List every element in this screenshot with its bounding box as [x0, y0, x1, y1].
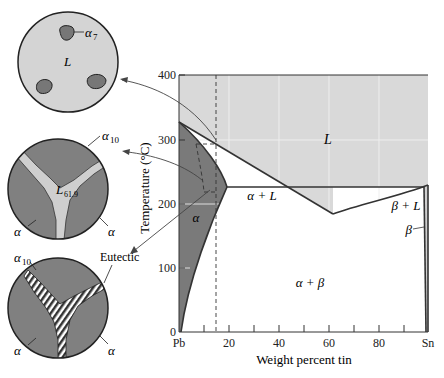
- microstructure-circle-1: α 7 L: [18, 12, 118, 112]
- c1-liquid-label: L: [63, 54, 71, 69]
- x-tick-20: 20: [223, 336, 235, 350]
- c3-alpha-right: α: [108, 343, 116, 358]
- c2-alpha10-label: α: [102, 128, 110, 143]
- c3-alpha-left: α: [14, 343, 22, 358]
- y-tick-100: 100: [158, 261, 176, 275]
- c3-alpha10-label: α: [14, 250, 22, 265]
- pb-sn-phase-diagram-figure: L α + L α α + β β + L β Pb 20 40 60 80 S…: [0, 0, 444, 378]
- phase-diagram: L α + L α α + β β + L β Pb 20 40 60 80 S…: [137, 68, 434, 367]
- microstructure-circle-2: α 10 L 61.9 α α: [8, 128, 120, 240]
- y-tick-200: 200: [158, 197, 176, 211]
- x-tick-40: 40: [273, 336, 285, 350]
- c1-alpha-sub: 7: [93, 32, 98, 42]
- c2-liquid-sub: 61.9: [64, 190, 78, 199]
- y-tick-300: 300: [158, 133, 176, 147]
- y-tick-0: 0: [170, 325, 176, 339]
- y-tick-400: 400: [158, 68, 176, 82]
- label-region-alpha-liquid: α + L: [247, 188, 276, 203]
- label-region-alpha-beta: α + β: [296, 275, 325, 290]
- c2-alpha-left: α: [14, 224, 22, 239]
- label-region-beta-liquid: β + L: [391, 198, 421, 213]
- c2-alpha10-sub: 10: [110, 135, 120, 145]
- microstructure-circle-3: α 10 Eutectic α α: [8, 250, 139, 360]
- c3-eutectic-label: Eutectic: [100, 250, 139, 264]
- c1-alpha-label: α: [85, 25, 93, 40]
- x-tick-80: 80: [373, 336, 385, 350]
- x-tick-sn: Sn: [422, 336, 435, 350]
- label-region-liquid: L: [323, 132, 332, 147]
- x-tick-60: 60: [323, 336, 335, 350]
- label-region-alpha: α: [193, 210, 201, 225]
- c2-liquid-label: L: [55, 182, 63, 197]
- label-region-beta: β: [405, 222, 413, 237]
- c2-alpha-right: α: [108, 224, 116, 239]
- x-axis-label: Weight percent tin: [256, 352, 352, 367]
